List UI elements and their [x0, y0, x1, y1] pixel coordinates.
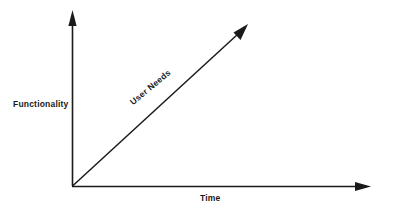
y-axis-group [68, 10, 76, 186]
user-needs-arrowhead-icon [234, 24, 249, 40]
user-needs-series [73, 24, 249, 186]
x-axis-label: Time [200, 193, 221, 203]
x-axis-group [72, 182, 371, 191]
user-needs-line [73, 34, 239, 186]
x-axis-arrowhead-icon [355, 182, 371, 191]
figure-canvas: Functionality Time User Needs [0, 0, 395, 214]
y-axis-arrowhead-icon [68, 10, 76, 26]
y-axis-label: Functionality [13, 99, 69, 109]
